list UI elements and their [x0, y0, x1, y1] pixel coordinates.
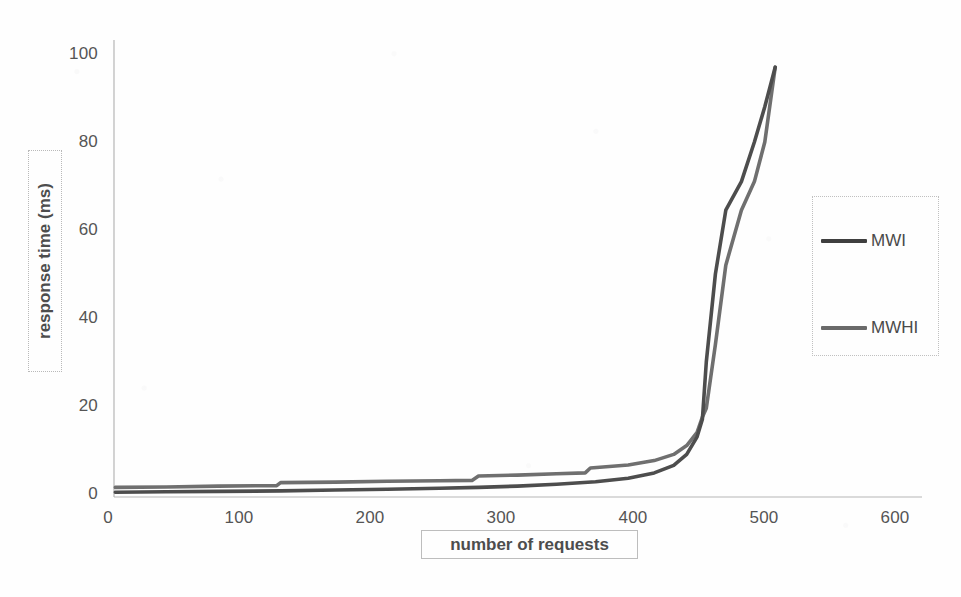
- legend-swatch-mwhi-icon: [821, 326, 867, 330]
- legend-label-mwi: MWI: [871, 231, 906, 251]
- legend[interactable]: MWI MWHI: [812, 196, 939, 356]
- series-line-mwi: [115, 67, 775, 492]
- legend-item-mwi[interactable]: MWI: [821, 231, 906, 251]
- chart-container: 100 80 60 40 20 0 0 100 200 300 400 500 …: [0, 0, 961, 597]
- legend-swatch-mwi-icon: [821, 239, 867, 243]
- series-line-mwhi: [115, 67, 775, 487]
- legend-label-mwhi: MWHI: [871, 318, 918, 338]
- legend-item-mwhi[interactable]: MWHI: [821, 318, 918, 338]
